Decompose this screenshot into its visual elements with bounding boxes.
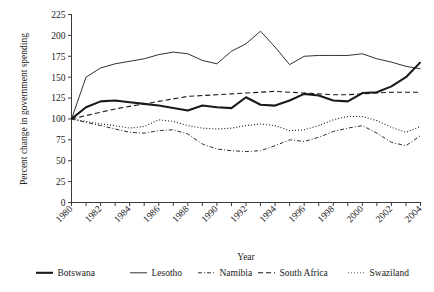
x-tick-label: 1982 [83,204,104,225]
legend-label-lesotho: Lesotho [152,268,183,278]
legend-label-south-africa: South Africa [280,268,329,278]
legend-label-namibia: Namibia [220,268,253,278]
y-tick-label: 175 [51,52,66,62]
y-tick-label: 125 [51,93,66,103]
legend-label-botswana: Botswana [58,268,96,278]
line-chart-canvas: 0255075100125150175200225 19801982198419… [0,0,434,292]
y-tick-label: 200 [51,31,66,41]
x-tick-label: 1988 [170,204,191,225]
x-tick-label: 1998 [316,204,337,225]
x-tick-label: 1984 [112,204,133,225]
x-tick-label: 2004 [403,204,424,225]
x-tick-label: 1980 [54,204,75,225]
x-tick-label: 1986 [141,204,162,225]
y-tick-label: 225 [51,10,66,20]
x-tick-label: 1992 [228,204,249,225]
y-tick-label: 25 [56,177,66,187]
series-line-swaziland [72,116,421,132]
series-line-lesotho [72,31,421,119]
series-line-botswana [72,62,421,119]
data-series-group [72,31,421,151]
y-tick-label: 100 [51,114,66,124]
chart-figure: 0255075100125150175200225 19801982198419… [0,0,434,292]
y-tick-label: 75 [56,135,66,145]
y-axis-ticks: 0255075100125150175200225 [51,10,71,208]
x-tick-label: 2002 [374,204,395,225]
y-tick-label: 50 [56,156,66,166]
x-tick-label: 1990 [199,204,220,225]
series-line-south-africa [72,91,421,119]
chart-legend: BotswanaLesothoNamibiaSouth AfricaSwazil… [36,268,409,278]
x-axis-ticks: 1980198219841986198819901992199419961998… [54,203,424,225]
axis-labels: Percent change in government spending Ye… [19,33,256,262]
axis-spines [72,14,422,203]
legend-label-swaziland: Swaziland [370,268,410,278]
y-axis-label: Percent change in government spending [19,33,29,185]
y-tick-label: 150 [51,73,66,83]
x-axis-label: Year [237,252,255,262]
x-tick-label: 1994 [257,204,278,225]
series-line-namibia [72,119,421,152]
x-tick-label: 1996 [287,204,308,225]
x-tick-label: 2000 [345,204,366,225]
